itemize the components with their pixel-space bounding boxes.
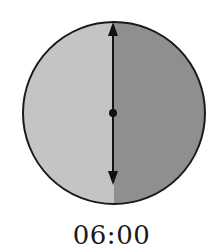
clock-diagram <box>0 0 223 215</box>
center-dot <box>109 109 117 117</box>
right-half <box>114 0 223 215</box>
time-label: 06:00 <box>0 220 223 250</box>
